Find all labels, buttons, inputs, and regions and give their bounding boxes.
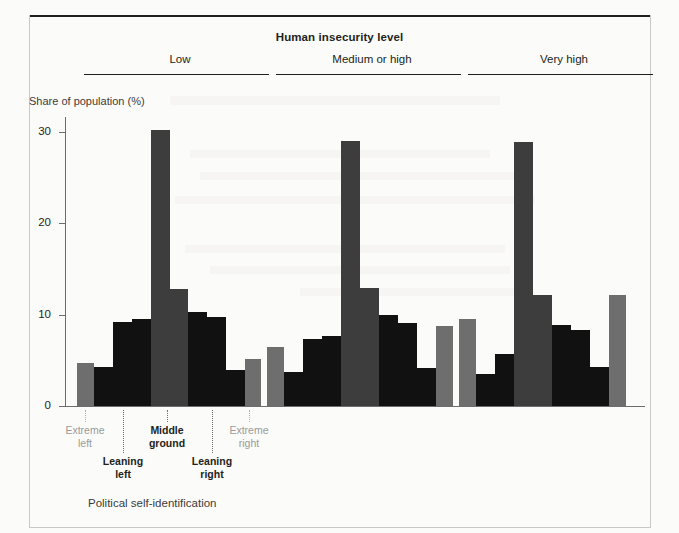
x-label-leader bbox=[249, 410, 250, 422]
bar bbox=[571, 330, 590, 406]
x-axis-category-label: Middleground bbox=[122, 424, 212, 449]
bar bbox=[379, 315, 398, 406]
bar bbox=[476, 374, 495, 406]
bar bbox=[207, 317, 226, 406]
x-label-line2: left bbox=[115, 468, 131, 480]
bar bbox=[188, 312, 207, 406]
bar bbox=[267, 347, 284, 406]
bar bbox=[113, 322, 132, 406]
y-axis-tick-label: 10 bbox=[25, 308, 51, 320]
x-axis-baseline bbox=[65, 406, 645, 407]
bar bbox=[514, 142, 533, 406]
bar bbox=[360, 288, 379, 406]
x-label-line1: Extreme bbox=[65, 424, 104, 436]
y-axis-tick-label: 0 bbox=[25, 399, 51, 411]
y-axis-tick bbox=[59, 406, 65, 407]
bar bbox=[132, 319, 151, 406]
bar bbox=[151, 130, 170, 406]
x-label-line1: Extreme bbox=[229, 424, 268, 436]
x-label-leader bbox=[85, 410, 86, 422]
x-label-line1: Leaning bbox=[192, 455, 232, 467]
bar bbox=[170, 289, 188, 406]
bar bbox=[226, 370, 245, 406]
bar bbox=[533, 295, 552, 406]
bar bbox=[417, 368, 436, 406]
y-axis-line bbox=[65, 117, 66, 407]
bar bbox=[459, 319, 476, 406]
x-axis-title: Political self-identification bbox=[88, 497, 216, 509]
x-axis-category-label: Extremeleft bbox=[40, 424, 130, 449]
bar bbox=[284, 372, 303, 406]
x-label-line2: right bbox=[239, 437, 259, 449]
bar bbox=[303, 339, 322, 406]
bar bbox=[245, 359, 261, 406]
x-label-line2: left bbox=[78, 437, 92, 449]
bar bbox=[609, 295, 626, 406]
bar bbox=[322, 336, 341, 406]
x-label-line2: ground bbox=[149, 437, 185, 449]
y-axis-tick bbox=[59, 132, 65, 133]
bar bbox=[590, 367, 609, 406]
plot-area: 0102030ExtremeleftLeaningleftMiddlegroun… bbox=[0, 0, 679, 533]
x-label-line1: Leaning bbox=[103, 455, 143, 467]
x-label-line1: Middle bbox=[150, 424, 183, 436]
x-axis-category-label: Leaningright bbox=[167, 455, 257, 480]
bar bbox=[552, 325, 571, 406]
y-axis-tick-label: 20 bbox=[25, 216, 51, 228]
y-axis-tick bbox=[59, 315, 65, 316]
bar bbox=[495, 354, 514, 406]
bar bbox=[436, 326, 453, 406]
chart-page: Human insecurity level LowMedium or high… bbox=[0, 0, 679, 533]
y-axis-tick bbox=[59, 223, 65, 224]
x-label-line2: right bbox=[200, 468, 223, 480]
x-axis-category-label: Extremeright bbox=[204, 424, 294, 449]
bar bbox=[341, 141, 360, 406]
x-label-leader bbox=[167, 410, 168, 422]
bar bbox=[398, 323, 417, 406]
y-axis-tick-label: 30 bbox=[25, 125, 51, 137]
bar bbox=[94, 367, 113, 406]
bar bbox=[77, 363, 94, 406]
x-axis-category-label: Leaningleft bbox=[78, 455, 168, 480]
